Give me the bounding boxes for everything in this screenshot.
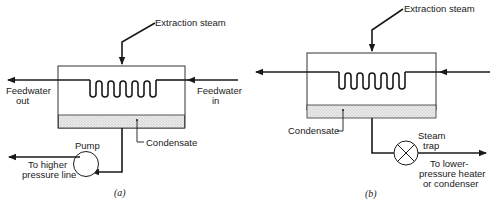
drain-line-b: [372, 118, 394, 153]
label-pump: Pump: [75, 140, 100, 151]
heater-shell-b: [307, 53, 436, 110]
label-to-higher-2: pressure line: [22, 169, 76, 180]
caption-a: (a): [114, 187, 126, 199]
label-condensate-b: Condensate: [288, 125, 339, 136]
diagram-a: Extraction steam Feedwater out Feedwater…: [6, 17, 242, 199]
label-feedwater-out-2: out: [16, 95, 30, 106]
diagram-b: Extraction steam Condensate Steam trap T…: [256, 3, 490, 200]
steam-trap-icon: [394, 141, 418, 165]
extraction-steam-line-b: [372, 9, 403, 51]
condensate-layer-a: [59, 115, 185, 128]
pump-icon: [74, 152, 99, 177]
label-condensate-a: Condensate: [146, 137, 197, 148]
label-feedwater-in-1: Feedwater: [197, 85, 242, 96]
extraction-steam-line-a: [122, 23, 155, 64]
label-extraction-steam-b: Extraction steam: [404, 3, 475, 14]
caption-b: (b): [365, 188, 377, 200]
condensate-layer-b: [307, 105, 436, 118]
label-to-lower-3: or condenser: [423, 178, 478, 189]
label-feedwater-in-2: in: [212, 95, 219, 106]
label-extraction-steam-a: Extraction steam: [155, 17, 226, 28]
label-steam-trap-2: trap: [423, 140, 439, 151]
